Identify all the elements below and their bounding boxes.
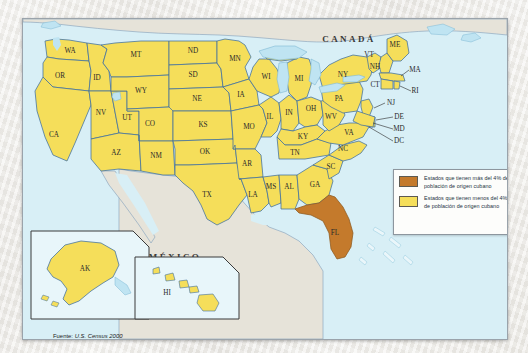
state-MT (101, 41, 169, 77)
country-label-canada: CANADÁ (322, 34, 375, 44)
state-label-GA: GA (310, 181, 321, 189)
state-AL (279, 175, 299, 209)
map-legend: Estados que tienen más del 4% de poblaci… (393, 169, 508, 235)
state-label-UT: UT (122, 114, 132, 122)
state-label-CO: CO (145, 120, 155, 128)
state-label-IA: IA (237, 91, 245, 99)
state-label-SC: SC (327, 163, 336, 171)
state-label-OR: OR (55, 72, 65, 80)
state-label-NE: NE (192, 95, 202, 103)
legend-label-low: Estados que tienen menos del 4% de pobla… (424, 195, 508, 210)
legend-swatch-low (399, 196, 418, 207)
state-label-KY: KY (298, 133, 309, 141)
state-label-SD: SD (188, 71, 197, 79)
state-label-WI: WI (261, 73, 271, 81)
state-label-WY: WY (135, 87, 148, 95)
source-label: Fuente: (53, 333, 73, 339)
state-label-ND: ND (188, 47, 198, 55)
state-label-MI: MI (295, 75, 304, 83)
state-label-NC: NC (338, 145, 348, 153)
state-label-RI: RI (411, 87, 419, 95)
state-label-MT: MT (131, 51, 142, 59)
state-label-NH: NH (370, 63, 380, 71)
state-label-AR: AR (242, 160, 252, 168)
state-label-TX: TX (202, 191, 212, 199)
state-label-AL: AL (284, 183, 294, 191)
state-label-ME: ME (390, 41, 401, 49)
hawaii-inset[interactable] (135, 257, 239, 319)
state-RI (394, 81, 400, 89)
state-label-NJ: NJ (387, 99, 395, 107)
state-label-NV: NV (96, 109, 107, 117)
legend-swatch-high (399, 176, 418, 187)
state-label-WA: WA (64, 47, 76, 55)
state-label-IN: IN (285, 109, 293, 117)
state-label-VT: VT (364, 51, 374, 59)
state-label-OK: OK (200, 148, 211, 156)
state-label-DC: DC (394, 137, 404, 145)
state-CT (381, 79, 393, 89)
state-label-PA: PA (335, 95, 344, 103)
state-label-IL: IL (267, 113, 274, 121)
state-label-OH: OH (306, 105, 316, 113)
lake-michigan (277, 62, 289, 93)
state-label-NM: NM (150, 152, 162, 160)
state-label-CT: CT (370, 81, 380, 89)
state-label-VA: VA (344, 129, 354, 137)
state-label-LA: LA (248, 191, 258, 199)
state-label-AZ: AZ (111, 149, 121, 157)
state-label-TN: TN (290, 149, 300, 157)
state-label-ID: ID (93, 74, 101, 82)
map-frame: CANADÁ MÉXICO (22, 18, 508, 340)
state-label-FL: FL (331, 229, 339, 237)
state-label-NY: NY (338, 71, 349, 79)
state-label-WV: WV (325, 113, 338, 121)
alaska-inset[interactable] (31, 231, 149, 319)
state-label-MD: MD (393, 125, 405, 133)
state-label-CA: CA (49, 131, 60, 139)
state-label-KS: KS (198, 121, 207, 129)
state-label-MO: MO (243, 123, 255, 131)
source-value: U.S. Census 2000 (75, 333, 123, 339)
state-label-MN: MN (229, 55, 241, 63)
legend-item-low: Estados que tienen menos del 4% de pobla… (399, 195, 508, 210)
state-label-MS: MS (266, 183, 276, 191)
legend-item-high: Estados que tienen más del 4% de poblaci… (399, 175, 508, 190)
state-label-MA: MA (409, 66, 421, 74)
state-label-DE: DE (394, 113, 404, 121)
state-label-HI: HI (163, 289, 171, 297)
source-note: Fuente: U.S. Census 2000 (53, 333, 122, 339)
legend-label-high: Estados que tienen más del 4% de poblaci… (424, 175, 508, 190)
state-label-AK: AK (80, 265, 91, 273)
